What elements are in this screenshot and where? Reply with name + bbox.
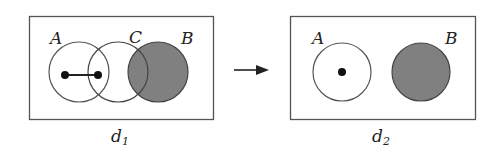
- euler-diagram-transformation: A C B d1 A B d2: [0, 0, 500, 152]
- label-c: C: [129, 27, 142, 47]
- panel-d2: A B d2: [291, 17, 476, 149]
- label-b: B: [444, 28, 458, 48]
- label-b: B: [180, 28, 194, 48]
- circle-b-shaded: [128, 42, 188, 102]
- caption-d2: d2: [372, 126, 390, 148]
- point-dot: [338, 68, 346, 76]
- panel-d1: A C B d1: [30, 17, 214, 149]
- right-arrow-icon: [234, 65, 269, 75]
- point-dot: [94, 71, 102, 79]
- caption-d1: d1: [111, 126, 129, 148]
- point-dot: [61, 71, 69, 79]
- circle-b-shaded: [392, 43, 450, 101]
- label-a: A: [48, 28, 62, 48]
- label-a: A: [310, 28, 324, 48]
